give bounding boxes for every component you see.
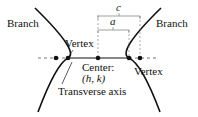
c-label: c [116, 2, 121, 13]
a-label: a [110, 16, 116, 27]
branch-left-label: Branch [7, 18, 39, 29]
transverse-axis-pointer [62, 62, 72, 84]
center-coords-label: (h, k) [82, 73, 105, 84]
center-point [96, 56, 101, 61]
left-vertex-point [66, 56, 71, 61]
vertex-left-label: Vertex [65, 38, 94, 49]
c-bracket [98, 13, 140, 19]
right-vertex-point [127, 56, 132, 61]
a-bracket [98, 27, 129, 33]
right-focus-point [138, 56, 143, 61]
vertex-right-label: Vertex [134, 66, 163, 77]
branch-right-label: Branch [156, 18, 188, 29]
left-focus-point [54, 56, 59, 61]
hyperbola-diagram: Branch Branch Vertex Vertex Center: (h, … [0, 0, 198, 117]
transverse-axis-label: Transverse axis [58, 86, 126, 97]
